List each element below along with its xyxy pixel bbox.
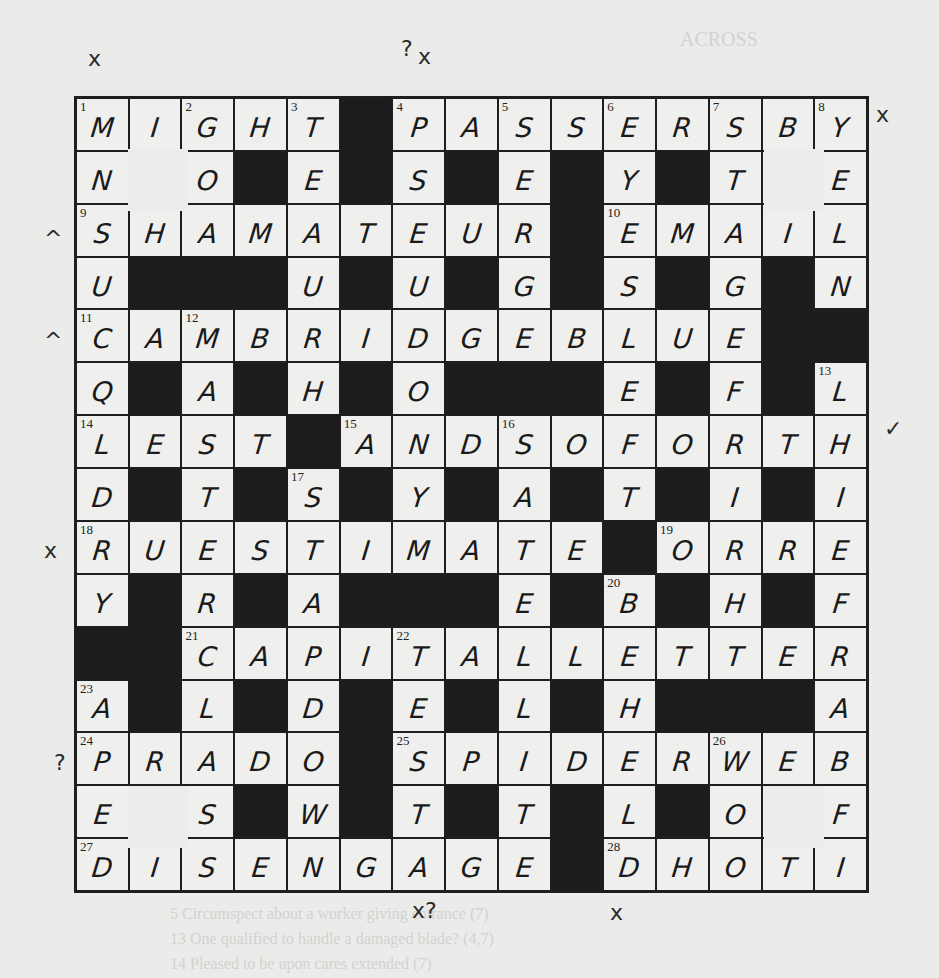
grid-cell[interactable]: Y [604,152,655,203]
grid-cell[interactable]: T [763,416,814,467]
grid-cell[interactable]: U [446,205,497,256]
grid-cell[interactable]: 2G [182,99,233,150]
grid-cell[interactable]: F [710,363,761,414]
grid-cell[interactable]: A [499,469,550,520]
grid-cell[interactable]: N [288,839,339,890]
grid-cell[interactable]: D [288,681,339,732]
grid-cell[interactable]: 10E [604,205,655,256]
grid-cell[interactable]: A [446,522,497,573]
grid-cell[interactable]: H [657,839,708,890]
grid-cell[interactable]: 3T [288,99,339,150]
grid-cell[interactable]: 22T [393,628,444,679]
grid-cell[interactable]: A [393,839,444,890]
grid-cell[interactable]: A [815,681,866,732]
grid-cell[interactable]: E [763,628,814,679]
grid-cell[interactable]: 15A [341,416,392,467]
grid-cell[interactable]: 27D [77,839,128,890]
grid-cell[interactable]: E [604,363,655,414]
grid-cell[interactable]: H [815,416,866,467]
grid-cell[interactable]: L [182,681,233,732]
grid-cell[interactable]: 5S [499,99,550,150]
grid-cell[interactable]: L [552,628,603,679]
grid-cell[interactable]: Y [77,575,128,626]
grid-cell[interactable]: W [288,786,339,837]
grid-cell[interactable]: L [604,310,655,361]
grid-cell[interactable]: R [499,205,550,256]
grid-cell[interactable]: E [604,733,655,784]
grid-cell[interactable]: E [815,522,866,573]
grid-cell[interactable]: H [235,99,286,150]
grid-cell[interactable]: T [604,469,655,520]
grid-cell[interactable]: E [499,839,550,890]
grid-cell[interactable]: 20B [604,575,655,626]
grid-cell[interactable]: D [552,733,603,784]
grid-cell[interactable]: 16S [499,416,550,467]
grid-cell[interactable]: R [763,522,814,573]
grid-cell[interactable]: G [499,258,550,309]
grid-cell[interactable]: O [182,152,233,203]
grid-cell[interactable]: 24P [77,733,128,784]
grid-cell[interactable]: N [393,416,444,467]
grid-cell[interactable]: I [130,99,181,150]
grid-cell[interactable]: R [657,733,708,784]
grid-cell[interactable]: S [182,839,233,890]
grid-cell[interactable]: E [763,733,814,784]
grid-cell[interactable]: E [710,310,761,361]
grid-cell[interactable]: I [341,522,392,573]
grid-cell[interactable]: U [393,258,444,309]
grid-cell[interactable]: E [288,152,339,203]
grid-cell[interactable]: O [288,733,339,784]
grid-cell[interactable]: G [341,839,392,890]
grid-cell[interactable]: S [182,416,233,467]
grid-cell[interactable]: U [77,258,128,309]
grid-cell[interactable]: S [393,152,444,203]
grid-cell[interactable]: O [393,363,444,414]
grid-cell[interactable]: M [235,205,286,256]
grid-cell[interactable]: G [710,258,761,309]
grid-cell[interactable]: 11C [77,310,128,361]
grid-cell[interactable]: R [130,733,181,784]
grid-cell[interactable]: T [393,786,444,837]
grid-cell[interactable]: A [446,99,497,150]
grid-cell[interactable]: 25S [393,733,444,784]
grid-cell[interactable]: D [446,416,497,467]
grid-cell[interactable]: T [341,205,392,256]
grid-cell[interactable]: O [710,786,761,837]
grid-cell[interactable]: U [657,310,708,361]
grid-cell[interactable]: E [393,205,444,256]
grid-cell[interactable]: M [657,205,708,256]
grid-cell[interactable]: B [763,99,814,150]
grid-cell[interactable]: A [710,205,761,256]
grid-cell[interactable]: 21C [182,628,233,679]
grid-cell[interactable]: 13L [815,363,866,414]
grid-cell[interactable]: T [288,522,339,573]
grid-cell[interactable]: 8Y [815,99,866,150]
grid-cell[interactable]: M [393,522,444,573]
grid-cell[interactable]: T [182,469,233,520]
grid-cell[interactable]: I [710,469,761,520]
grid-cell[interactable]: T [499,786,550,837]
grid-cell[interactable]: I [763,205,814,256]
grid-cell[interactable]: F [604,416,655,467]
grid-cell[interactable]: E [499,310,550,361]
grid-cell[interactable]: A [182,733,233,784]
grid-cell[interactable]: H [710,575,761,626]
grid-cell[interactable]: E [130,416,181,467]
grid-cell[interactable]: T [499,522,550,573]
grid-cell[interactable]: D [77,469,128,520]
grid-cell[interactable]: 14L [77,416,128,467]
grid-cell[interactable]: B [815,733,866,784]
grid-cell[interactable]: 4P [393,99,444,150]
grid-cell[interactable]: L [604,786,655,837]
grid-cell[interactable]: A [288,205,339,256]
grid-cell[interactable]: 23A [77,681,128,732]
grid-cell[interactable]: Y [393,469,444,520]
grid-cell[interactable]: R [710,522,761,573]
grid-cell[interactable]: 18R [77,522,128,573]
grid-cell[interactable]: T [657,628,708,679]
grid-cell[interactable]: T [235,416,286,467]
grid-cell[interactable]: S [235,522,286,573]
grid-cell[interactable]: I [499,733,550,784]
grid-cell[interactable]: N [815,258,866,309]
grid-cell[interactable]: N [77,152,128,203]
